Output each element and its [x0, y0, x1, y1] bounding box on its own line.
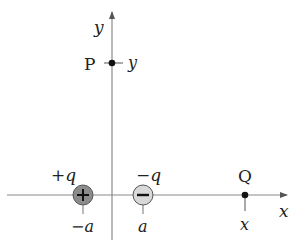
charge-diagram: x y P y Q x +q −a −q a [0, 0, 295, 242]
point-p-label: P [84, 54, 95, 74]
point-q-label: Q [238, 166, 252, 186]
point-p-dot [109, 60, 116, 67]
positive-charge-position: −a [71, 217, 94, 236]
y-axis-label: y [93, 17, 104, 37]
point-p-coord: y [127, 53, 138, 72]
negative-charge-label: −q [136, 165, 161, 185]
x-axis-label: x [279, 201, 289, 221]
positive-charge-label: +q [51, 165, 76, 185]
point-q-dot [242, 192, 249, 199]
negative-charge-position: a [138, 217, 148, 236]
point-q-coord: x [240, 215, 249, 234]
